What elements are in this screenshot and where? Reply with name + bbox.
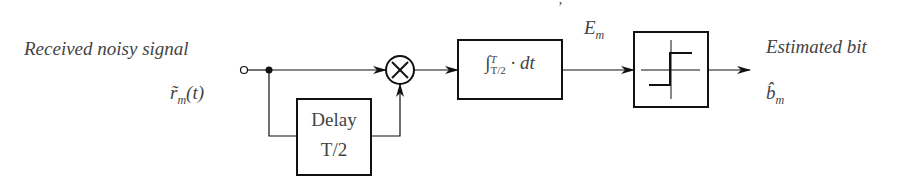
- integrator-label: ∫TT/2 · dt: [458, 52, 562, 76]
- energy-label: Em: [584, 17, 604, 43]
- input-symbol: r̃m(t): [170, 82, 204, 108]
- input-label: Received noisy signal: [24, 38, 189, 60]
- delay-branch-line: [269, 70, 297, 136]
- output-label: Estimated bit: [766, 36, 867, 58]
- input-terminal: [241, 67, 248, 74]
- delay-output-line: [371, 84, 400, 136]
- output-symbol: b̂m: [766, 82, 784, 108]
- delay-label: Delay T/2: [297, 105, 371, 165]
- stray-mark: ’: [558, 0, 563, 16]
